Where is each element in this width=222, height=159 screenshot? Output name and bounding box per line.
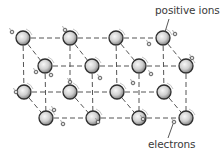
positive-ion <box>38 59 52 73</box>
electron-trail <box>10 28 11 30</box>
positive-ion <box>179 59 193 73</box>
positive-ion <box>109 31 123 45</box>
electron <box>34 70 38 74</box>
positive-ion <box>39 111 53 125</box>
metallic-lattice-diagram <box>0 0 222 159</box>
lattice-lines <box>23 38 186 118</box>
electron <box>63 28 67 32</box>
lattice-line <box>23 38 24 92</box>
positive-ion <box>132 59 146 73</box>
positive-ion <box>63 31 77 45</box>
ion-group <box>16 29 195 125</box>
electron <box>68 80 72 84</box>
electron-trail <box>61 120 62 122</box>
electron-trail <box>63 26 64 28</box>
lattice-line <box>116 38 117 92</box>
electron-trail <box>52 106 53 108</box>
electron-trail <box>173 30 174 32</box>
electron <box>52 108 56 112</box>
electron <box>149 72 153 76</box>
electron-trail <box>34 68 35 70</box>
electron <box>96 120 100 124</box>
positive-ion <box>16 31 30 45</box>
positive-ions-label: positive ions <box>155 4 220 16</box>
electron <box>141 117 145 121</box>
electron <box>98 76 102 80</box>
electron <box>61 122 65 126</box>
electron <box>49 73 53 77</box>
electron-trail <box>68 78 69 80</box>
electron <box>172 120 176 124</box>
positive-ion <box>63 85 77 99</box>
electron <box>131 81 135 85</box>
electron <box>190 56 194 60</box>
electron <box>173 32 177 36</box>
electron-trail <box>190 54 191 56</box>
electron <box>147 42 151 46</box>
positive-ion <box>179 111 193 125</box>
positive-ion <box>110 85 124 99</box>
electron <box>10 30 14 34</box>
positive-ion <box>156 31 170 45</box>
positive-ion <box>17 85 31 99</box>
positive-ion <box>157 85 171 99</box>
electron-trail <box>14 88 15 90</box>
electrons-label: electrons <box>148 138 195 150</box>
electron-trail <box>98 74 99 76</box>
lattice-line <box>163 38 164 92</box>
electron-trail <box>149 70 150 72</box>
lattice-line <box>45 66 46 118</box>
electrons-pointer <box>168 124 173 138</box>
electron <box>14 90 18 94</box>
electron-trail <box>147 40 148 42</box>
electron-trail <box>131 79 132 81</box>
lattice-line <box>92 66 93 118</box>
positive-ion <box>85 59 99 73</box>
